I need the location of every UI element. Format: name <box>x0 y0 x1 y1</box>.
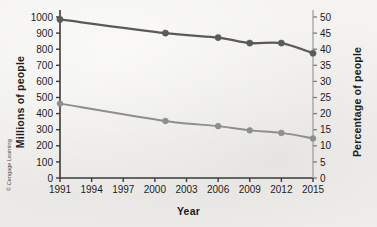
data-point <box>215 35 221 41</box>
data-point <box>215 123 221 129</box>
y-axis-left-tick-label: 300 <box>36 124 53 135</box>
y-axis-right-tick-label: 45 <box>320 28 332 39</box>
y-axis-right-tick-label: 25 <box>320 92 332 103</box>
x-axis-tick-label: 2006 <box>207 184 230 195</box>
x-axis-tick-label: 2012 <box>270 184 293 195</box>
chart-plot-area: 0100200300400500600700800900100005101520… <box>0 0 377 227</box>
data-point <box>310 50 316 56</box>
y-axis-right-tick-label: 20 <box>320 108 332 119</box>
data-point <box>310 135 316 141</box>
data-point <box>57 16 63 22</box>
y-axis-left-tick-label: 700 <box>36 60 53 71</box>
x-axis-tick-label: 1994 <box>81 184 104 195</box>
series-2 <box>57 101 316 142</box>
data-point <box>247 40 253 46</box>
data-point <box>247 127 253 133</box>
x-axis-tick-label: 1991 <box>49 184 72 195</box>
y-axis-left-tick-label: 900 <box>36 28 53 39</box>
series-1 <box>57 16 316 56</box>
y-axis-right-tick-label: 50 <box>320 12 332 23</box>
y-axis-left-tick-label: 400 <box>36 108 53 119</box>
y-axis-right-tick-label: 40 <box>320 44 332 55</box>
data-point <box>163 118 169 124</box>
x-axis-tick-label: 2003 <box>175 184 198 195</box>
copyright-credit: © Cengage Learning <box>6 132 12 198</box>
data-point <box>57 101 63 107</box>
y-axis-left-tick-label: 1000 <box>31 12 54 23</box>
y-axis-right-tick-label: 15 <box>320 124 332 135</box>
x-axis-title: Year <box>0 205 377 217</box>
x-axis-tick-label: 2009 <box>239 184 262 195</box>
data-point <box>162 30 168 36</box>
y-axis-right-tick-label: 30 <box>320 76 332 87</box>
y-axis-right-tick-label: 5 <box>320 157 326 168</box>
chart-figure: 0100200300400500600700800900100005101520… <box>0 0 377 227</box>
y-axis-right-title: Percentage of people <box>351 42 363 162</box>
y-axis-left-title: Millions of people <box>14 42 26 162</box>
x-axis-tick-label: 2015 <box>302 184 325 195</box>
x-axis-tick-label: 1997 <box>112 184 135 195</box>
y-axis-left-tick-label: 800 <box>36 44 53 55</box>
data-point <box>278 130 284 136</box>
y-axis-left-tick-label: 500 <box>36 92 53 103</box>
y-axis-right-tick-label: 0 <box>320 173 326 184</box>
y-axis-left-tick-label: 0 <box>47 173 53 184</box>
y-axis-left-tick-label: 200 <box>36 140 53 151</box>
y-axis-left-tick-label: 600 <box>36 76 53 87</box>
y-axis-right-tick-label: 10 <box>320 140 332 151</box>
series-line <box>60 104 313 139</box>
y-axis-left-tick-label: 100 <box>36 157 53 168</box>
y-axis-right-tick-label: 35 <box>320 60 332 71</box>
series-line <box>60 19 313 53</box>
x-axis-tick-label: 2000 <box>144 184 167 195</box>
data-point <box>278 40 284 46</box>
